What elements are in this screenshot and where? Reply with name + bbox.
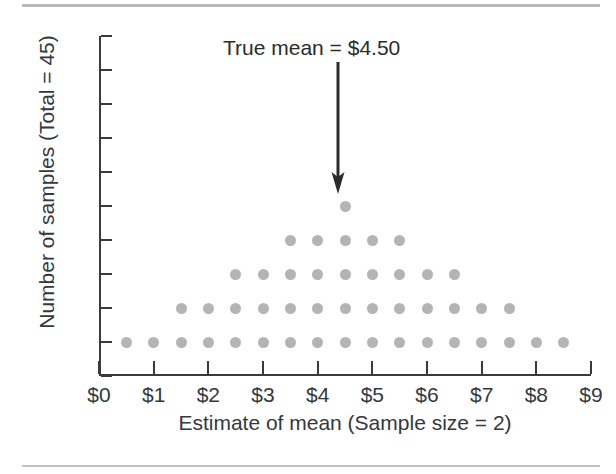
down-arrow-icon [324, 62, 352, 194]
y-axis-tick [101, 307, 112, 309]
data-point [394, 337, 405, 348]
y-axis-tick [101, 273, 112, 275]
data-point [230, 269, 241, 280]
data-point [449, 269, 460, 280]
data-point [449, 303, 460, 314]
x-axis-tick-label: $3 [233, 384, 293, 405]
data-point [176, 303, 187, 314]
data-point [258, 269, 269, 280]
x-axis-tick [153, 361, 155, 374]
x-axis-tick-label: $8 [506, 384, 566, 405]
data-point [422, 269, 433, 280]
data-point [148, 337, 159, 348]
top-rule [22, 4, 600, 7]
x-axis-tick [426, 361, 428, 374]
data-point [340, 235, 351, 246]
y-axis-tick [101, 341, 112, 343]
x-axis-tick-label: $2 [178, 384, 238, 405]
x-axis-tick-label: $6 [397, 384, 457, 405]
figure: 012345678910$0$1$2$3$4$5$6$7$8$9 Number … [0, 0, 616, 474]
x-axis-tick-label: $1 [124, 384, 184, 405]
data-point [422, 303, 433, 314]
x-axis-tick-label: $4 [288, 384, 348, 405]
data-point [312, 235, 323, 246]
data-point [531, 337, 542, 348]
data-point [367, 303, 378, 314]
x-axis-tick-label: $7 [452, 384, 512, 405]
data-point [285, 337, 296, 348]
data-point [258, 303, 269, 314]
data-point [258, 337, 269, 348]
data-point [340, 303, 351, 314]
data-point [394, 303, 405, 314]
data-point [312, 269, 323, 280]
x-axis-tick-label: $5 [342, 384, 402, 405]
y-axis-tick [101, 35, 112, 37]
data-point [312, 337, 323, 348]
data-point [285, 269, 296, 280]
x-axis-tick [535, 361, 537, 374]
data-point [367, 337, 378, 348]
x-axis-title: Estimate of mean (Sample size = 2) [99, 411, 591, 435]
x-axis-tick [481, 361, 483, 374]
data-point [476, 303, 487, 314]
x-axis-tick [371, 361, 373, 374]
x-axis-tick-label: $0 [69, 384, 129, 405]
data-point [422, 337, 433, 348]
data-point [476, 337, 487, 348]
x-axis-line [99, 374, 591, 376]
data-point [312, 303, 323, 314]
data-point [394, 235, 405, 246]
data-point [203, 337, 214, 348]
data-point [558, 337, 569, 348]
data-point [340, 201, 351, 212]
x-axis-tick-label: $9 [561, 384, 616, 405]
true-mean-annotation-label: True mean = $4.50 [223, 36, 400, 60]
data-point [230, 337, 241, 348]
x-axis-tick [207, 361, 209, 374]
data-point [176, 337, 187, 348]
data-point [230, 303, 241, 314]
data-point [203, 303, 214, 314]
data-point [285, 235, 296, 246]
data-point [367, 269, 378, 280]
y-axis-tick [101, 205, 112, 207]
y-axis-tick [101, 103, 112, 105]
x-axis-tick [590, 361, 592, 374]
data-point [367, 235, 378, 246]
y-axis-tick [101, 375, 112, 377]
y-axis-title: Number of samples (Total = 45) [35, 17, 59, 347]
x-axis-tick [98, 361, 100, 374]
y-axis-tick [101, 171, 112, 173]
data-point [504, 303, 515, 314]
y-axis-tick [101, 69, 112, 71]
y-axis-tick [101, 137, 112, 139]
data-point [121, 337, 132, 348]
data-point [285, 303, 296, 314]
data-point [449, 337, 460, 348]
data-point [394, 269, 405, 280]
x-axis-tick [317, 361, 319, 374]
bottom-rule [22, 465, 600, 467]
x-axis-tick [262, 361, 264, 374]
y-axis-tick [101, 239, 112, 241]
data-point [340, 269, 351, 280]
data-point [504, 337, 515, 348]
data-point [340, 337, 351, 348]
